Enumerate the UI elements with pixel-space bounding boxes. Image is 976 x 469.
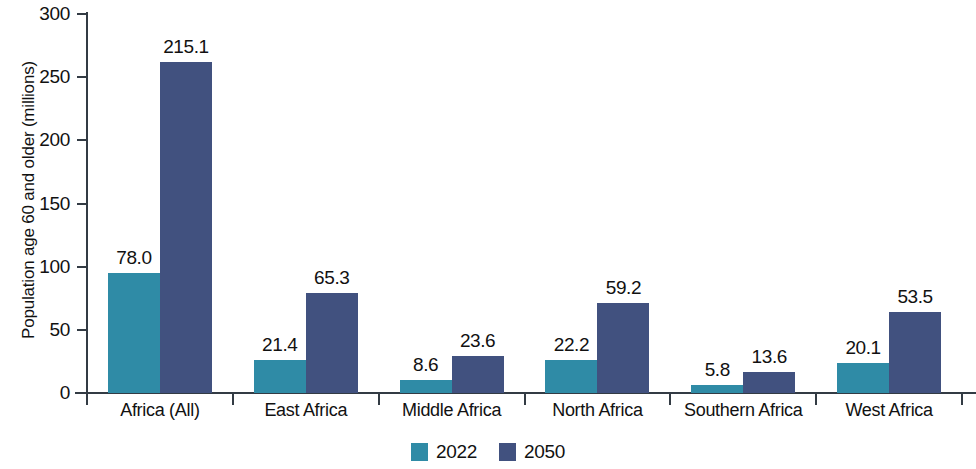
bar-2022-east-africa[interactable] [254,360,306,393]
bar-chart: Population age 60 and older (millions) 0… [0,0,976,469]
bar-2050-africa-all[interactable] [160,62,212,393]
x-category-label: West Africa [845,400,932,421]
bar-2022-west-africa[interactable] [837,363,889,393]
bar-value-label: 215.1 [163,36,209,58]
chart-legend: 20222050 [0,441,976,463]
bar-2050-east-africa[interactable] [306,293,358,393]
x-tick-mark [961,394,963,405]
bar-2022-middle-africa[interactable] [400,380,452,393]
bar-value-label: 78.0 [116,247,151,269]
bar-value-label: 59.2 [606,277,641,299]
bar-value-label: 53.5 [897,286,932,308]
bar-2050-southern-africa[interactable] [743,372,795,393]
x-category-label: Southern Africa [684,400,803,421]
bar-value-label: 23.6 [460,330,495,352]
bar-2022-africa-all[interactable] [108,273,160,393]
bar-value-label: 20.1 [845,337,880,359]
bar-value-label: 22.2 [554,334,589,356]
x-category-label: North Africa [552,400,642,421]
x-tick-mark [524,394,526,405]
bar-value-label: 21.4 [262,334,297,356]
bar-2050-middle-africa[interactable] [452,356,504,393]
legend-swatch-icon [499,443,516,461]
legend-label: 2022 [436,441,477,463]
legend-item-2022[interactable]: 2022 [411,441,477,463]
bar-value-label: 65.3 [314,267,349,289]
bar-value-label: 8.6 [413,354,438,376]
bar-2022-southern-africa[interactable] [691,385,743,393]
x-tick-mark [86,394,88,405]
bar-value-label: 5.8 [705,359,730,381]
x-category-label: East Africa [264,400,347,421]
bar-2050-west-africa[interactable] [889,312,941,393]
x-category-label: Africa (All) [120,400,199,421]
x-tick-mark [815,394,817,405]
legend-swatch-icon [411,443,428,461]
legend-label: 2050 [524,441,565,463]
bar-value-label: 13.6 [752,346,787,368]
bar-2050-north-africa[interactable] [597,303,649,393]
x-tick-mark [669,394,671,405]
legend-item-2050[interactable]: 2050 [499,441,565,463]
x-tick-mark [378,394,380,405]
x-tick-mark [232,394,234,405]
bar-2022-north-africa[interactable] [545,360,597,393]
x-category-label: Middle Africa [402,400,501,421]
